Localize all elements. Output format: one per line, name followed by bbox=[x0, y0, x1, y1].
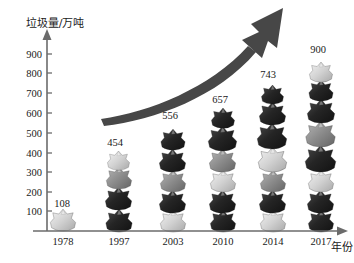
x-axis bbox=[33, 227, 348, 236]
pictogram-2014 bbox=[257, 85, 286, 232]
y-tick-label-300: 300 bbox=[10, 167, 42, 178]
y-tick-label-800: 800 bbox=[10, 68, 42, 79]
value-label-2014: 743 bbox=[260, 69, 276, 80]
y-tick-label-400: 400 bbox=[10, 148, 42, 159]
value-label-1997: 454 bbox=[107, 137, 123, 148]
x-tick-label-2017: 2017 bbox=[311, 236, 332, 247]
value-label-1978: 108 bbox=[54, 198, 70, 209]
pictogram-1978 bbox=[50, 209, 75, 231]
value-label-2017: 900 bbox=[310, 44, 326, 55]
chart-canvas bbox=[0, 0, 354, 263]
y-tick-label-600: 600 bbox=[10, 108, 42, 119]
pictogram-group bbox=[50, 62, 335, 232]
x-tick-label-2003: 2003 bbox=[163, 236, 184, 247]
x-tick-label-2010: 2010 bbox=[213, 236, 234, 247]
y-tick-label-500: 500 bbox=[10, 128, 42, 139]
y-tick-label-900: 900 bbox=[10, 49, 42, 60]
x-tick-label-1997: 1997 bbox=[109, 236, 130, 247]
value-label-2003: 556 bbox=[162, 110, 178, 121]
pictogram-1997 bbox=[105, 151, 132, 232]
value-label-2010: 657 bbox=[212, 94, 228, 105]
upward-trend-arrow bbox=[101, 8, 283, 126]
y-tick-label-100: 100 bbox=[10, 206, 42, 217]
y-tick-label-700: 700 bbox=[10, 88, 42, 99]
pictogram-2003 bbox=[159, 129, 185, 232]
y-tick-label-200: 200 bbox=[10, 187, 42, 198]
x-tick-label-2014: 2014 bbox=[263, 236, 284, 247]
pictogram-2017 bbox=[305, 62, 335, 232]
y-axis bbox=[43, 29, 53, 231]
pictogram-2010 bbox=[208, 108, 236, 232]
x-tick-label-1978: 1978 bbox=[53, 236, 74, 247]
garbage-volume-chart: 垃圾量/万吨 年份 bbox=[0, 0, 354, 263]
